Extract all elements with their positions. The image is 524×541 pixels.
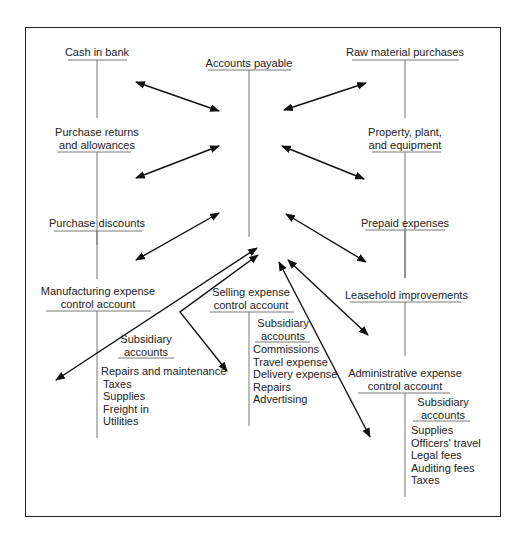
list-item: Repairs <box>253 381 337 394</box>
title-line: and equipment <box>350 139 460 152</box>
selling-expense-title: Selling expense control account <box>208 286 294 311</box>
selling-subsidiary-list: Commissions Travel expense Delivery expe… <box>253 343 337 406</box>
heading-line: accounts <box>413 409 473 422</box>
title-line: Property, plant, <box>350 126 460 139</box>
list-item: Officers' travel <box>411 437 481 450</box>
title-line: control account <box>344 380 466 393</box>
list-item: Commissions <box>253 343 337 356</box>
list-item: Supplies <box>101 390 226 403</box>
list-item: Repairs and maintenance <box>101 365 226 378</box>
title-line: Purchase returns <box>42 126 152 139</box>
list-item: Supplies <box>411 424 481 437</box>
list-item: Legal fees <box>411 449 481 462</box>
list-item: Taxes <box>411 474 481 487</box>
manufacturing-subsidiary-list: Repairs and maintenance Taxes Supplies F… <box>101 365 226 428</box>
title-line: Administrative expense <box>344 367 466 380</box>
heading-line: accounts <box>253 330 313 343</box>
prepaid-expenses-title: Prepaid expenses <box>355 217 455 230</box>
list-item: Travel expense <box>253 356 337 369</box>
heading-line: Subsidiary <box>116 333 176 346</box>
property-plant-equipment-title: Property, plant, and equipment <box>350 126 460 151</box>
cash-in-bank-title: Cash in bank <box>47 46 147 59</box>
title-line: Manufacturing expense <box>38 285 158 298</box>
leasehold-improvements-title: Leasehold improvements <box>345 289 465 302</box>
accounts-payable-title: Accounts payable <box>200 57 298 70</box>
list-item: Auditing fees <box>411 462 481 475</box>
administrative-subsidiary-list: Supplies Officers' travel Legal fees Aud… <box>411 424 481 487</box>
raw-material-purchases-title: Raw material purchases <box>345 46 465 59</box>
title-line: Selling expense <box>208 286 294 299</box>
title-line: control account <box>38 298 158 311</box>
list-item: Utilities <box>101 415 226 428</box>
purchase-returns-title: Purchase returns and allowances <box>42 126 152 151</box>
administrative-expense-title: Administrative expense control account <box>344 367 466 392</box>
heading-line: accounts <box>116 346 176 359</box>
manufacturing-expense-title: Manufacturing expense control account <box>38 285 158 310</box>
list-item: Delivery expense <box>253 368 337 381</box>
manufacturing-subsidiary-heading: Subsidiary accounts <box>116 333 176 358</box>
purchase-discounts-title: Purchase discounts <box>42 217 152 230</box>
heading-line: Subsidiary <box>413 396 473 409</box>
list-item: Taxes <box>101 378 226 391</box>
heading-line: Subsidiary <box>253 317 313 330</box>
list-item: Freight in <box>101 403 226 416</box>
selling-subsidiary-heading: Subsidiary accounts <box>253 317 313 342</box>
title-line: control account <box>208 299 294 312</box>
title-line: and allowances <box>42 139 152 152</box>
administrative-subsidiary-heading: Subsidiary accounts <box>413 396 473 421</box>
list-item: Advertising <box>253 393 337 406</box>
